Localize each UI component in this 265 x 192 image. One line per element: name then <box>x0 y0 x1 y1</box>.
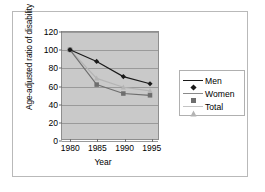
y-tick-label: 20 <box>48 118 58 128</box>
x-tick-label: 1995 <box>142 143 161 153</box>
data-point-men <box>147 81 152 86</box>
legend-label-women: Women <box>205 89 234 99</box>
y-tick-label: 80 <box>48 63 58 73</box>
plot-area: 0204060801001201980198519901995 <box>61 31 159 140</box>
legend-item-men: Men <box>183 74 244 87</box>
legend-item-women: Women <box>183 87 244 100</box>
x-tick-label: 1990 <box>115 143 134 153</box>
y-tick-label: 0 <box>53 136 58 146</box>
y-tick-label: 60 <box>48 82 58 92</box>
y-axis-title: Age-adjusted ratio of disability <box>24 0 34 117</box>
data-point-women <box>148 93 153 98</box>
y-tick-label: 100 <box>44 45 58 55</box>
y-tick-label: 40 <box>48 100 58 110</box>
series-line-women <box>70 50 150 95</box>
legend-marker-triangle-icon <box>183 101 203 112</box>
legend-label-men: Men <box>205 76 222 86</box>
x-tick-mark <box>97 139 98 142</box>
data-point-women <box>94 82 99 87</box>
legend-label-total: Total <box>205 102 223 112</box>
series-line-total <box>70 50 150 91</box>
gridline <box>62 141 158 142</box>
series-line-men <box>70 50 150 84</box>
chart-frame: Age-adjusted ratio of disability 0204060… <box>12 11 248 177</box>
legend-marker-diamond-icon <box>183 75 203 86</box>
x-tick-mark <box>125 139 126 142</box>
y-tick-label: 120 <box>44 27 58 37</box>
series-layer <box>62 32 158 139</box>
y-tick-mark <box>59 141 62 142</box>
x-tick-label: 1980 <box>61 143 80 153</box>
data-point-women <box>121 91 126 96</box>
data-point-men <box>121 74 126 79</box>
legend-marker-square-icon <box>183 88 203 99</box>
x-tick-mark <box>70 139 71 142</box>
x-axis-title: Year <box>48 157 158 167</box>
x-tick-mark <box>152 139 153 142</box>
x-tick-label: 1985 <box>88 143 107 153</box>
chart-legend: Men Women Total <box>179 70 245 116</box>
legend-item-total: Total <box>183 100 244 113</box>
data-point-men <box>94 59 99 64</box>
